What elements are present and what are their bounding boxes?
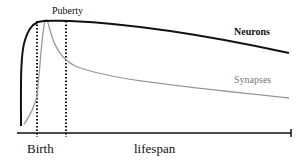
synapses-label: Synapses xyxy=(234,74,271,85)
neurons-label: Neurons xyxy=(234,26,270,37)
birth-label: Birth xyxy=(27,141,54,157)
puberty-label: Puberty xyxy=(52,5,83,16)
x-axis-label: lifespan xyxy=(134,141,175,157)
